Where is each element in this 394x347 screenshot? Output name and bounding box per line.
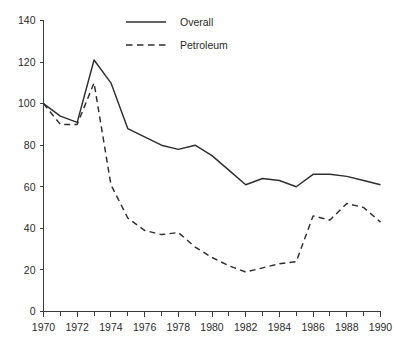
x-axis-tick-label: 1984 bbox=[268, 321, 292, 333]
legend-label-petroleum: Petroleum bbox=[180, 39, 228, 51]
x-axis-tick-label: 1972 bbox=[66, 321, 90, 333]
y-axis-tick-label: 40 bbox=[24, 222, 36, 234]
chart-figure: 020406080100120140 197019721974197619781… bbox=[0, 0, 394, 347]
x-axis-tick-label: 1980 bbox=[200, 321, 224, 333]
line-chart-plot: 020406080100120140 197019721974197619781… bbox=[0, 0, 394, 347]
chart-legend: OverallPetroleum bbox=[126, 16, 228, 51]
y-axis-tick-label: 100 bbox=[18, 97, 36, 109]
series-line-overall bbox=[44, 60, 381, 187]
y-axis-tick-label: 60 bbox=[24, 181, 36, 193]
x-axis-tick-label: 1986 bbox=[301, 321, 325, 333]
x-axis-tick-label: 1976 bbox=[133, 321, 157, 333]
x-axis-tick-label: 1978 bbox=[167, 321, 191, 333]
y-axis: 020406080100120140 bbox=[18, 14, 44, 317]
x-axis-tick-label: 1970 bbox=[32, 321, 56, 333]
y-axis-tick-label: 20 bbox=[24, 264, 36, 276]
x-axis-tick-label: 1982 bbox=[234, 321, 258, 333]
x-axis-tick-label: 1988 bbox=[335, 321, 359, 333]
x-axis-tick-label: 1974 bbox=[99, 321, 123, 333]
y-axis-tick-label: 140 bbox=[18, 14, 36, 26]
series-line-petroleum bbox=[44, 83, 381, 272]
x-axis: 1970197219741976197819801982198419861988… bbox=[32, 312, 393, 333]
y-axis-tick-label: 80 bbox=[24, 139, 36, 151]
x-axis-tick-label: 1990 bbox=[369, 321, 393, 333]
y-axis-tick-label: 0 bbox=[30, 305, 36, 317]
legend-label-overall: Overall bbox=[180, 16, 213, 28]
data-series-group bbox=[44, 60, 381, 272]
y-axis-tick-label: 120 bbox=[18, 56, 36, 68]
